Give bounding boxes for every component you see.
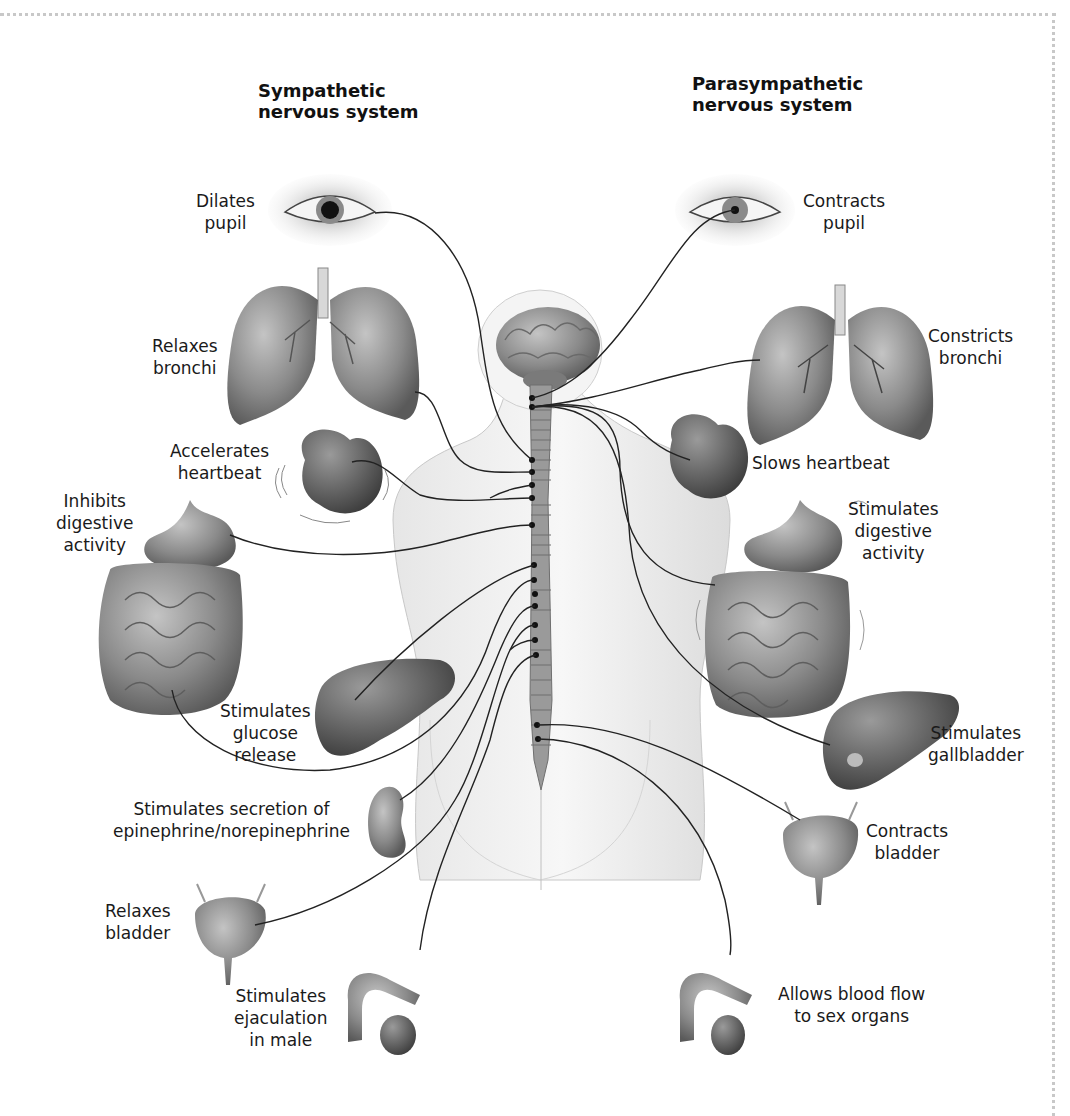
label-allows-blood-flow: Allows blood flow to sex organs: [778, 983, 925, 1027]
label-line: Dilates: [196, 190, 255, 212]
label-line: Allows blood flow: [778, 983, 925, 1005]
label-line: bladder: [866, 842, 948, 864]
left-heart: [275, 430, 388, 523]
sympathetic-heading: Sympathetic nervous system: [258, 80, 419, 122]
spinal-cord: [529, 385, 552, 790]
right-male-reproductive: [680, 973, 752, 1055]
right-lungs: [747, 285, 933, 445]
label-line: pupil: [803, 212, 885, 234]
label-line: Constricts: [928, 325, 1013, 347]
label-line: Stimulates: [848, 498, 939, 520]
label-relaxes-bronchi: Relaxes bronchi: [152, 335, 218, 379]
adrenal-kidney: [368, 787, 406, 858]
label-dilates-pupil: Dilates pupil: [196, 190, 255, 234]
label-line: pupil: [196, 212, 255, 234]
label-stimulates-gallbladder: Stimulates gallbladder: [928, 722, 1024, 766]
sympathetic-heading-line-1: Sympathetic: [258, 80, 419, 101]
label-line: bronchi: [152, 357, 218, 379]
parasympathetic-heading-line-2: nervous system: [692, 94, 863, 115]
label-stimulates-ejaculation: Stimulates ejaculation in male: [234, 985, 327, 1051]
label-accelerates-heartbeat: Accelerates heartbeat: [170, 440, 269, 484]
left-bladder: [195, 884, 266, 985]
label-line: Accelerates: [170, 440, 269, 462]
label-line: digestive: [56, 512, 134, 534]
label-line: Stimulates: [220, 700, 311, 722]
label-line: release: [220, 744, 311, 766]
label-line: to sex organs: [778, 1005, 925, 1027]
parasympathetic-heading: Parasympathetic nervous system: [692, 73, 863, 115]
label-line: Stimulates secretion of: [113, 798, 350, 820]
label-constricts-bronchi: Constricts bronchi: [928, 325, 1013, 369]
label-line: activity: [848, 542, 939, 564]
label-line: Relaxes: [105, 900, 171, 922]
label-inhibits-digestive-activity: Inhibits digestive activity: [56, 490, 134, 556]
label-relaxes-bladder: Relaxes bladder: [105, 900, 171, 944]
right-bladder: [783, 802, 858, 905]
left-eye: [268, 174, 392, 246]
label-line: epinephrine/norepinephrine: [113, 820, 350, 842]
label-line: digestive: [848, 520, 939, 542]
label-line: ejaculation: [234, 1007, 327, 1029]
label-stimulates-epinephrine-secretion: Stimulates secretion of epinephrine/nore…: [113, 798, 350, 842]
label-line: bladder: [105, 922, 171, 944]
sympathetic-heading-line-2: nervous system: [258, 101, 419, 122]
left-lungs: [227, 268, 419, 425]
label-line: gallbladder: [928, 744, 1024, 766]
label-line: heartbeat: [170, 462, 269, 484]
label-line: Inhibits: [56, 490, 134, 512]
label-stimulates-glucose-release: Stimulates glucose release: [220, 700, 311, 766]
label-contracts-bladder: Contracts bladder: [866, 820, 948, 864]
label-line: activity: [56, 534, 134, 556]
label-line: in male: [234, 1029, 327, 1051]
parasympathetic-heading-line-1: Parasympathetic: [692, 73, 863, 94]
label-line: Relaxes: [152, 335, 218, 357]
label-line: Stimulates: [928, 722, 1024, 744]
label-line: Slows heartbeat: [752, 452, 890, 474]
label-line: Stimulates: [234, 985, 327, 1007]
label-line: bronchi: [928, 347, 1013, 369]
label-line: Contracts: [803, 190, 885, 212]
label-stimulates-digestive-activity: Stimulates digestive activity: [848, 498, 939, 564]
left-male-reproductive: [348, 973, 420, 1055]
label-slows-heartbeat: Slows heartbeat: [752, 452, 890, 474]
label-contracts-pupil: Contracts pupil: [803, 190, 885, 234]
label-line: Contracts: [866, 820, 948, 842]
label-line: glucose: [220, 722, 311, 744]
